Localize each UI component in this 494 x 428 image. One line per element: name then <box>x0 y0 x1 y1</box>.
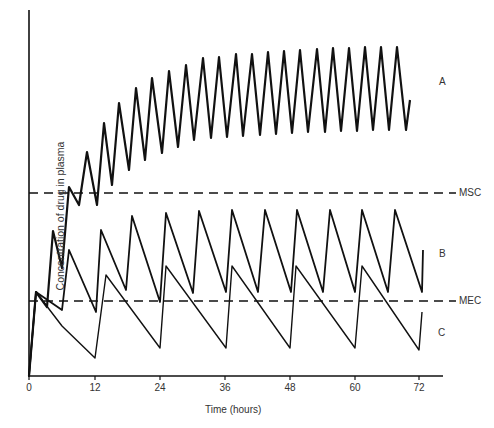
msc-label: MSC <box>459 187 481 198</box>
x-tick-36: 36 <box>219 382 230 393</box>
x-tick-60: 60 <box>349 382 360 393</box>
series-c-label: C <box>438 327 445 338</box>
series-a-label: A <box>439 76 446 87</box>
x-tick-48: 48 <box>284 382 295 393</box>
series-b-label: B <box>439 248 446 259</box>
x-tick-12: 12 <box>89 382 100 393</box>
series-c-line <box>29 266 422 376</box>
chart-canvas <box>0 0 494 428</box>
y-axis-title: Concentration of drug in plasma <box>54 106 66 326</box>
series-a-line <box>29 47 410 376</box>
x-tick-72: 72 <box>413 382 424 393</box>
x-tick-24: 24 <box>154 382 165 393</box>
x-tick-0: 0 <box>26 382 32 393</box>
x-axis-title: Time (hours) <box>205 404 261 415</box>
mec-label: MEC <box>459 295 481 306</box>
